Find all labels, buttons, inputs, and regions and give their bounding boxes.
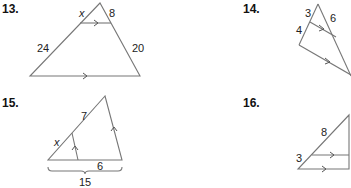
label-14-4: 4 (296, 24, 302, 36)
label-16-8: 8 (321, 126, 327, 138)
label-15-6: 6 (97, 160, 103, 172)
label-13-20: 20 (132, 42, 144, 54)
triangle-14: 3 4 6 (296, 4, 351, 76)
label-13-x: x (78, 7, 85, 19)
triangle-15: 7 x 6 15 (48, 96, 122, 188)
label-14-3: 3 (305, 7, 311, 19)
figures: x 8 24 20 3 4 6 7 x 6 15 8 3 (0, 0, 351, 188)
label-13-24: 24 (37, 42, 49, 54)
triangle-16: 8 3 (296, 115, 349, 172)
label-14-6: 6 (330, 12, 336, 24)
label-15-x: x (53, 136, 60, 148)
triangle-13: x 8 24 20 (30, 3, 144, 79)
label-16-3: 3 (296, 152, 302, 164)
label-15-15: 15 (79, 176, 91, 188)
label-13-8: 8 (109, 7, 115, 19)
label-15-7: 7 (81, 110, 87, 122)
